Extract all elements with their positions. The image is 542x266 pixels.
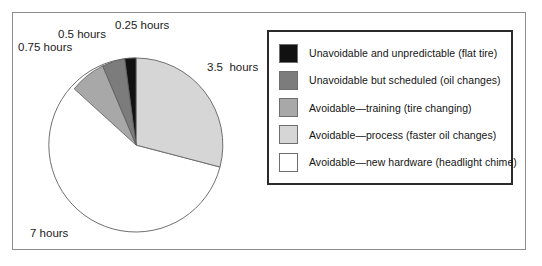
pie-label-quarter-hour: 0.25 hours (115, 20, 169, 32)
pie-chart-figure: 0.25 hours 0.5 hours 0.75 hours 3.5 hour… (0, 0, 542, 266)
legend-item-avoidable-process: Avoidable—process (faster oil changes) (279, 123, 503, 147)
legend-list: Unavoidable and unpredictable (flat tire… (279, 41, 503, 174)
pie-chart-svg (36, 45, 236, 245)
legend-swatch-icon (279, 98, 298, 117)
legend-item-label: Avoidable—process (faster oil changes) (309, 129, 496, 141)
legend-item-label: Unavoidable and unpredictable (flat tire… (309, 47, 497, 59)
pie-chart (36, 45, 236, 245)
legend-item-unavoidable-unpredictable: Unavoidable and unpredictable (flat tire… (279, 41, 503, 65)
legend-item-unavoidable-scheduled: Unavoidable but scheduled (oil changes) (279, 68, 503, 92)
pie-label-seven-hours: 7 hours (30, 228, 68, 240)
legend-item-label: Avoidable—training (tire changing) (309, 102, 472, 114)
legend-swatch-icon (279, 44, 298, 63)
legend-swatch-icon (279, 125, 298, 144)
legend-item-label: Unavoidable but scheduled (oil changes) (309, 74, 501, 86)
pie-label-three-quarter-hour: 0.75 hours (18, 42, 72, 54)
legend: Unavoidable and unpredictable (flat tire… (267, 30, 513, 185)
pie-label-three-point-five-hours: 3.5 hours (207, 62, 258, 74)
legend-item-label: Avoidable—new hardware (headlight chime) (309, 156, 517, 168)
legend-swatch-icon (279, 153, 298, 172)
pie-label-half-hour: 0.5 hours (58, 29, 106, 41)
legend-swatch-icon (279, 71, 298, 90)
legend-item-avoidable-training: Avoidable—training (tire changing) (279, 96, 503, 120)
legend-item-avoidable-new-hardware: Avoidable—new hardware (headlight chime) (279, 150, 503, 174)
